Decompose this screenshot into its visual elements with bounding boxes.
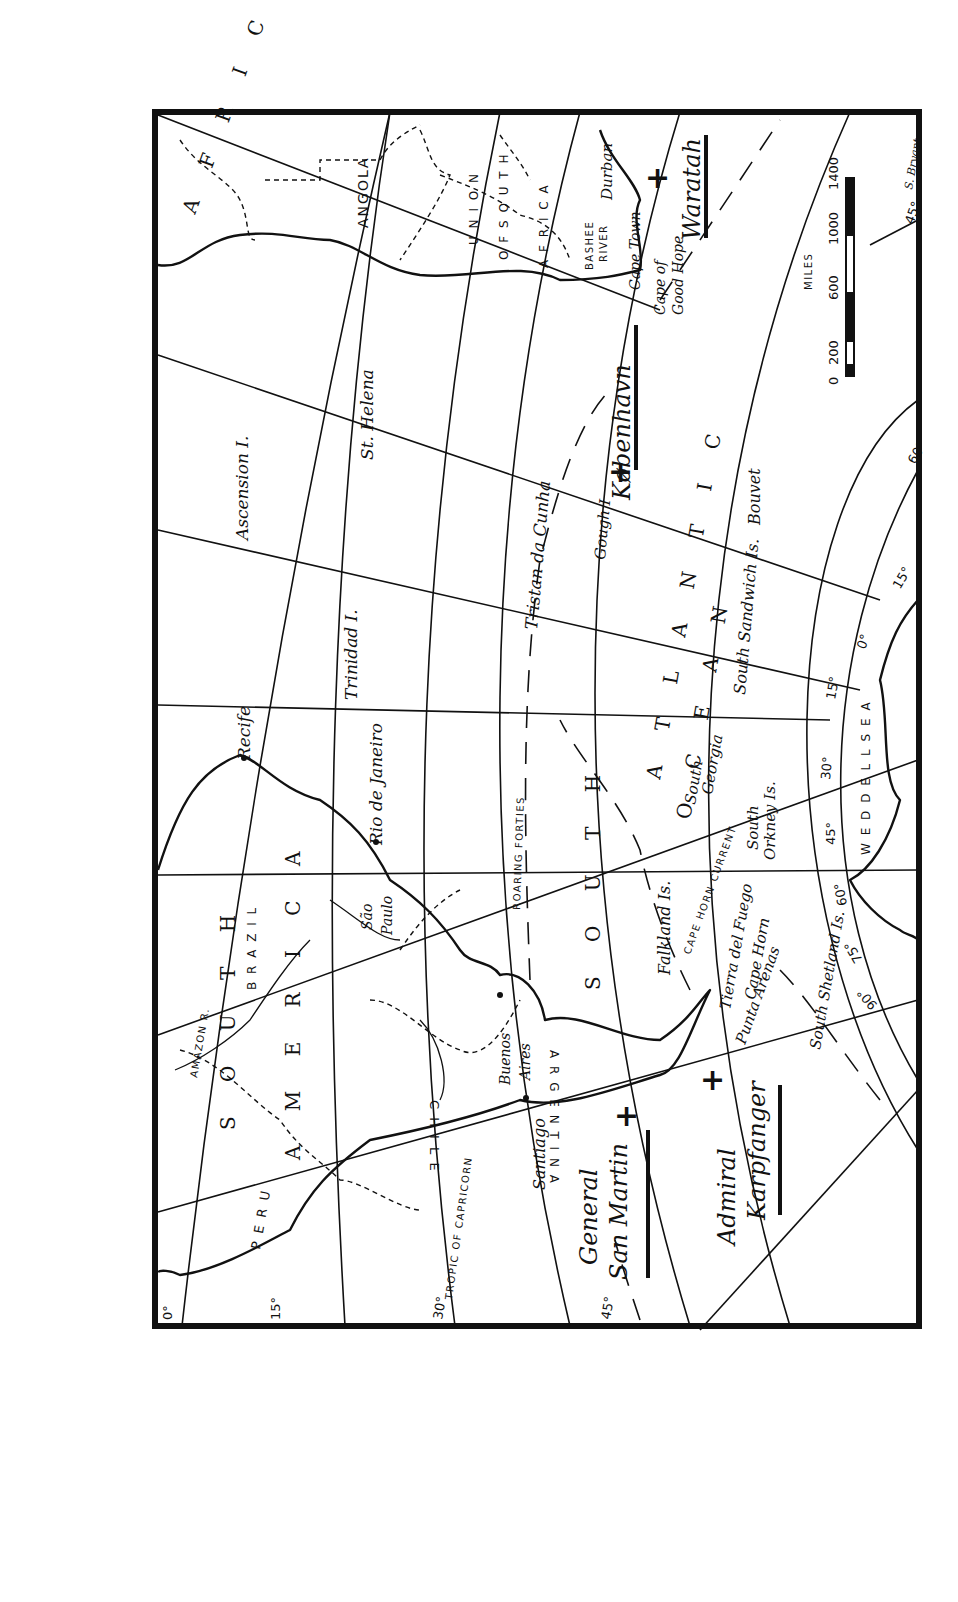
- scale-bar: [845, 177, 855, 377]
- svg-text:45°: 45°: [823, 822, 838, 845]
- svg-text:+: +: [608, 454, 633, 489]
- svg-text:Durban: Durban: [598, 143, 616, 201]
- svg-text:0°: 0°: [160, 1305, 175, 1320]
- svg-text:Orkney Is.: Orkney Is.: [761, 781, 779, 860]
- svg-text:45°: 45°: [598, 1295, 617, 1320]
- svg-text:RIVER: RIVER: [598, 224, 609, 262]
- map-canvas: A F R I C A ANGOLA U N I O N O F S O U T…: [0, 0, 958, 1602]
- svg-text:Gough I: Gough I: [591, 497, 614, 560]
- svg-text:São: São: [359, 904, 375, 930]
- svg-text:S O U T H: S O U T H: [581, 761, 605, 990]
- svg-text:TROPIC OF CAPRICORN: TROPIC OF CAPRICORN: [443, 1156, 474, 1302]
- svg-text:90°: 90°: [854, 985, 880, 1012]
- svg-text:San Martin: San Martin: [605, 1143, 633, 1280]
- svg-text:15°: 15°: [890, 564, 915, 591]
- svg-text:Recife: Recife: [234, 706, 254, 761]
- svg-text:75°: 75°: [841, 939, 866, 966]
- svg-text:C H I L E: C H I L E: [427, 1100, 442, 1173]
- svg-text:Bouvet: Bouvet: [745, 468, 764, 526]
- svg-text:60°: 60°: [831, 882, 850, 907]
- svg-text:General: General: [575, 1169, 603, 1266]
- svg-text:+: +: [700, 1062, 725, 1097]
- svg-text:Waratah: Waratah: [678, 138, 706, 240]
- svg-text:U N I O N: U N I O N: [467, 172, 481, 245]
- svg-text:+: +: [645, 160, 670, 195]
- svg-text:Santiago: Santiago: [530, 1118, 549, 1190]
- svg-text:Admiral: Admiral: [713, 1148, 741, 1247]
- svg-text:15°: 15°: [268, 1297, 283, 1320]
- svg-text:Cape of: Cape of: [652, 258, 668, 315]
- svg-text:0: 0: [826, 377, 841, 385]
- svg-text:Aires: Aires: [517, 1043, 533, 1082]
- svg-text:Trinidad I.: Trinidad I.: [341, 609, 361, 700]
- svg-text:Buenos: Buenos: [497, 1033, 513, 1086]
- svg-text:AMAZON R.: AMAZON R.: [188, 1007, 211, 1079]
- svg-text:ANGOLA: ANGOLA: [355, 156, 371, 228]
- svg-text:Rio de Janeiro: Rio de Janeiro: [366, 723, 386, 846]
- svg-text:+: +: [614, 1098, 639, 1133]
- svg-text:Falkland Is.: Falkland Is.: [655, 881, 674, 976]
- svg-text:Cape Town: Cape Town: [627, 212, 643, 290]
- svg-text:60°: 60°: [905, 439, 930, 466]
- svg-text:Karpfanger: Karpfanger: [743, 1080, 771, 1221]
- svg-text:St. Helena: St. Helena: [357, 369, 377, 460]
- svg-text:B R A Z I L: B R A Z I L: [245, 906, 259, 990]
- svg-text:30°: 30°: [818, 756, 835, 780]
- svg-text:South Sandwich Is.: South Sandwich Is.: [730, 538, 763, 696]
- svg-text:1000: 1000: [826, 212, 841, 245]
- svg-text:30°: 30°: [430, 1295, 449, 1320]
- svg-text:15°: 15°: [823, 675, 842, 700]
- svg-text:A F R I C A: A F R I C A: [537, 183, 551, 268]
- scale-labels: MILES 0 200 600 1000 1400: [803, 157, 841, 385]
- svg-text:A R G E N T I N A: A R G E N T I N A: [547, 1050, 561, 1185]
- svg-text:A F R I C A: A F R I C A: [177, 0, 291, 218]
- svg-text:A M E R I C A: A M E R I C A: [281, 838, 305, 1161]
- svg-text:O F S O U T H: O F S O U T H: [497, 153, 511, 260]
- svg-text:Ascension I.: Ascension I.: [232, 436, 252, 542]
- svg-text:South: South: [744, 805, 762, 850]
- svg-text:MILES: MILES: [803, 253, 814, 290]
- svg-text:Tristan da Cunha: Tristan da Cunha: [521, 480, 554, 631]
- svg-text:1400: 1400: [826, 157, 841, 190]
- svg-text:Good Hope: Good Hope: [670, 236, 686, 315]
- svg-text:Paulo: Paulo: [379, 896, 395, 936]
- svg-text:S O U T H: S O U T H: [216, 901, 240, 1130]
- svg-text:ROARING FORTIES: ROARING FORTIES: [511, 796, 526, 910]
- svg-text:600: 600: [826, 275, 841, 300]
- svg-text:200: 200: [826, 340, 841, 365]
- svg-text:W E D D E L L S E A: W E D D E L L S E A: [859, 700, 873, 855]
- svg-text:BASHEE: BASHEE: [584, 221, 595, 270]
